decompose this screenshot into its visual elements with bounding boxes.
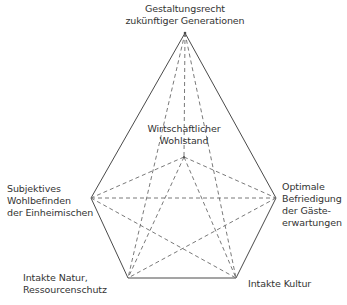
label-right-gaeste: Optimale Befriedigung der Gäste- erwartu… [282,181,347,229]
edge-right-bottom-left [128,198,276,278]
label-line: der Gäste- [282,205,347,217]
edge-center-bottom-right [184,157,236,278]
diagram-canvas [0,0,347,305]
label-line: zukünftiger Generationen [115,15,255,27]
label-bottom-left-natur: Intakte Natur, Ressourcenschutz [23,272,123,296]
edge-center-right [184,157,276,198]
pentagon-outline [91,33,276,278]
dashed-connections [91,33,276,278]
label-line: Subjektives [7,183,92,195]
label-left-wohlbefinden: Subjektives Wohlbefinden der Einheimisch… [7,183,92,219]
label-line: Wohlbefinden [7,195,92,207]
label-line: Intakte Natur, [23,272,123,284]
label-center-wohlstand: Wirtschaftlicher Wohlstand [139,123,229,147]
node-top-marker [184,32,187,35]
label-line: Ressourcenschutz [23,284,123,296]
label-line: Gestaltungsrecht [115,3,255,15]
label-line: erwartungen [282,217,347,229]
label-line: Wirtschaftlicher [139,123,229,135]
edge-top-bottom-left [128,33,185,278]
edge-top-bottom-right [185,33,236,278]
node-center-marker [183,156,185,158]
label-line: Intakte Kultur [248,278,328,290]
edge-center-left [91,157,184,198]
edge-left-bottom-right [91,198,236,278]
label-line: Wohlstand [139,135,229,147]
label-line: Optimale [282,181,347,193]
edge-center-bottom-left [128,157,184,278]
label-bottom-right-kultur: Intakte Kultur [248,278,328,290]
label-top-gestaltungsrecht: Gestaltungsrecht zukünftiger Generatione… [115,3,255,27]
label-line: der Einheimischen [7,207,92,219]
label-line: Befriedigung [282,193,347,205]
